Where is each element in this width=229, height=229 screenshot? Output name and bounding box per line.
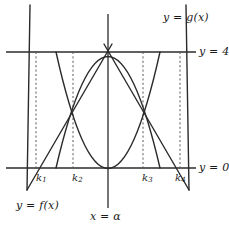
label-root-k2-subscript: 2: [78, 176, 83, 184]
label-root-k4: k4: [175, 173, 186, 184]
label-line-y0: y = 0: [199, 162, 229, 173]
label-root-k1: k1: [36, 173, 47, 184]
label-root-k1-subscript: 1: [42, 176, 47, 184]
curve-g-left-branch: [27, 5, 30, 190]
label-root-k3-subscript: 3: [148, 176, 153, 184]
figure-canvas: [0, 0, 229, 229]
label-root-k4-subscript: 4: [181, 176, 186, 184]
math-figure: y = g(x) y = 4 y = 0 y = f(x) x = α k1 k…: [0, 0, 229, 229]
label-line-y4: y = 4: [199, 46, 229, 57]
label-curve-g: y = g(x): [163, 12, 209, 23]
label-root-k3: k3: [142, 173, 153, 184]
label-curve-f: y = f(x): [16, 200, 59, 211]
label-root-k2: k2: [72, 173, 83, 184]
label-axis-x-alpha: x = α: [90, 211, 121, 222]
curve-g-right-branch: [186, 5, 189, 190]
